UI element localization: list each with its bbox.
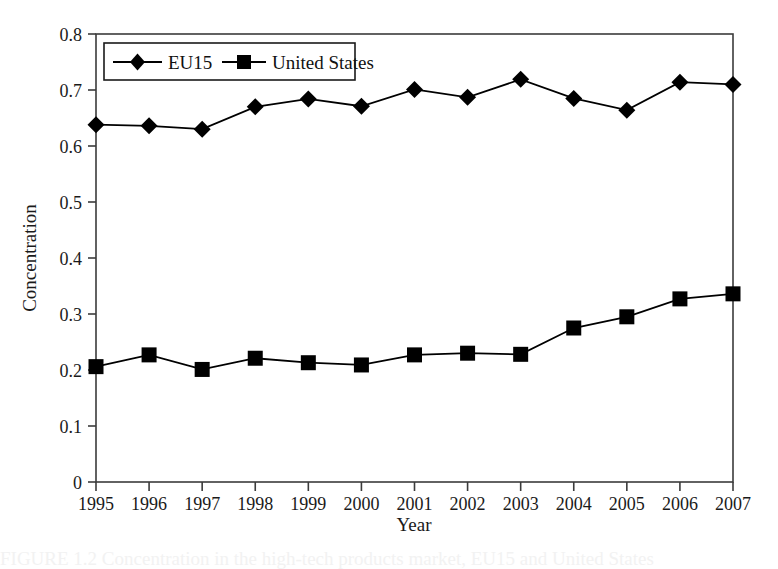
x-tick-label-2003: 2003	[503, 494, 539, 514]
x-tick-label-2001: 2001	[397, 494, 433, 514]
square-marker	[301, 355, 316, 370]
x-tick-label-2004: 2004	[556, 494, 592, 514]
x-tick-label-1995: 1995	[78, 494, 114, 514]
x-axis-ticks	[96, 482, 733, 491]
x-tick-label-2007: 2007	[715, 494, 751, 514]
x-tick-label-1998: 1998	[237, 494, 273, 514]
square-marker	[195, 362, 210, 377]
y-axis-tick-labels: 0.8 0.7 0.6 0.5 0.4 0.3 0.2 0.1 0	[60, 25, 83, 493]
legend-label-united-states: United States	[272, 52, 374, 73]
line-chart: 0.8 0.7 0.6 0.5 0.4 0.3 0.2 0.1 0 Concen…	[0, 0, 778, 569]
square-marker	[672, 291, 687, 306]
square-marker	[619, 309, 634, 324]
y-axis-ticks	[88, 34, 96, 482]
y-tick-label-0.4: 0.4	[60, 249, 83, 269]
square-marker	[566, 321, 581, 336]
square-marker	[726, 286, 741, 301]
y-tick-label-0.2: 0.2	[60, 361, 83, 381]
x-axis-tick-labels: 1995199619971998199920002001200220032004…	[78, 494, 751, 514]
square-marker	[142, 347, 157, 362]
square-marker	[248, 351, 263, 366]
square-marker	[460, 346, 475, 361]
y-tick-label-0.8: 0.8	[60, 25, 83, 45]
legend-label-eu15: EU15	[168, 52, 212, 73]
x-axis-title: Year	[396, 514, 432, 535]
y-tick-label-0: 0	[73, 473, 82, 493]
y-tick-label-0.6: 0.6	[60, 137, 83, 157]
x-tick-label-1999: 1999	[290, 494, 326, 514]
x-tick-label-2002: 2002	[450, 494, 486, 514]
y-tick-label-0.7: 0.7	[60, 81, 83, 101]
x-tick-label-2000: 2000	[343, 494, 379, 514]
y-axis-title: Concentration	[19, 204, 40, 312]
plot-frame	[96, 34, 733, 482]
x-tick-label-1997: 1997	[184, 494, 220, 514]
square-marker	[89, 359, 104, 374]
square-marker-icon	[237, 55, 251, 69]
figure-caption: FIGURE 1.2 Concentration in the high-tec…	[0, 549, 778, 569]
legend[interactable]: EU15 United States	[104, 43, 374, 80]
y-tick-label-0.3: 0.3	[60, 305, 83, 325]
square-marker	[354, 357, 369, 372]
x-tick-label-2005: 2005	[609, 494, 645, 514]
y-tick-label-0.5: 0.5	[60, 193, 83, 213]
y-tick-label-0.1: 0.1	[60, 417, 83, 437]
plot-area-border	[96, 34, 733, 482]
x-tick-label-1996: 1996	[131, 494, 167, 514]
square-marker	[407, 347, 422, 362]
square-marker	[513, 347, 528, 362]
figure-container: 0.8 0.7 0.6 0.5 0.4 0.3 0.2 0.1 0 Concen…	[0, 0, 778, 569]
x-tick-label-2006: 2006	[662, 494, 698, 514]
